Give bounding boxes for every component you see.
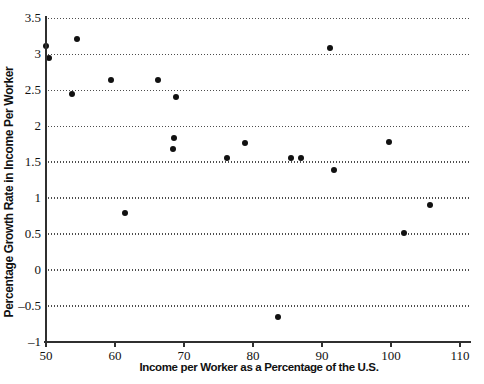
x-tick-label: 90 — [305, 348, 339, 364]
data-point — [401, 230, 407, 236]
x-tick-label: 110 — [443, 348, 477, 364]
data-point — [173, 94, 179, 100]
y-tick-label: 3 — [0, 46, 41, 62]
data-point — [69, 91, 75, 97]
x-tick-label: 60 — [98, 348, 132, 364]
data-point — [224, 155, 230, 161]
data-point — [170, 146, 176, 152]
scatter-chart-figure: Percentage Growth Rate in Income Per Wor… — [0, 0, 484, 384]
data-point — [122, 210, 128, 216]
data-point — [155, 77, 161, 83]
x-tick-mark — [114, 343, 116, 347]
y-tick-label: 2.5 — [0, 82, 41, 98]
y-axis-line — [45, 16, 47, 346]
data-point — [288, 155, 294, 161]
x-tick-mark — [459, 343, 461, 347]
x-tick-mark — [252, 343, 254, 347]
data-point — [331, 167, 337, 173]
y-tick-label: 3.5 — [0, 10, 41, 26]
data-point — [427, 202, 433, 208]
gridline — [48, 161, 471, 162]
data-point — [327, 45, 333, 51]
x-tick-mark — [183, 343, 185, 347]
data-point — [108, 77, 114, 83]
gridline — [48, 197, 471, 198]
x-tick-mark — [390, 343, 392, 347]
x-tick-label: 70 — [167, 348, 201, 364]
y-tick-label: 2 — [0, 118, 41, 134]
y-tick-label: 0.5 — [0, 226, 41, 242]
y-tick-label: 0 — [0, 262, 41, 278]
x-tick-label: 100 — [374, 348, 408, 364]
data-point — [46, 55, 52, 61]
data-point — [171, 135, 177, 141]
gridline — [48, 90, 471, 91]
x-tick-label: 50 — [29, 348, 63, 364]
gridline — [48, 233, 471, 234]
x-tick-label: 80 — [236, 348, 270, 364]
data-point — [242, 140, 248, 146]
x-axis-line — [44, 341, 471, 343]
y-tick-label: 1.5 — [0, 154, 41, 170]
y-tick-label: 1 — [0, 190, 41, 206]
gridline — [48, 305, 471, 306]
gridline — [48, 126, 471, 127]
data-point — [74, 36, 80, 42]
data-point — [275, 314, 281, 320]
gridline — [48, 54, 471, 55]
gridline — [48, 18, 471, 19]
y-tick-label: –0.5 — [0, 298, 41, 314]
gridline — [48, 269, 471, 270]
x-tick-mark — [321, 343, 323, 347]
data-point — [386, 139, 392, 145]
